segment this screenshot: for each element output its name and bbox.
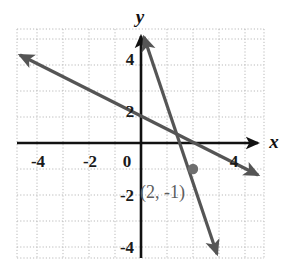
x-axis-label: x — [268, 131, 279, 152]
graph-svg: -4 -2 0 4 4 2 -2 -4 x y (2, -1) — [0, 0, 291, 266]
x-tick-label-0: 0 — [123, 152, 132, 171]
coordinate-plane-figure: -4 -2 0 4 4 2 -2 -4 x y (2, -1) — [0, 0, 291, 266]
y-axis-label: y — [134, 6, 145, 27]
x-tick-label--4: -4 — [31, 152, 46, 171]
intersection-point-label: (2, -1) — [140, 182, 185, 203]
y-tick-label-4: 4 — [126, 50, 135, 69]
intersection-point-marker — [188, 164, 198, 174]
y-tick-label--2: -2 — [120, 186, 134, 205]
y-tick-label--4: -4 — [120, 238, 135, 257]
x-tick-label-4: 4 — [230, 152, 239, 171]
y-tick-label-2: 2 — [126, 102, 135, 121]
x-tick-label--2: -2 — [83, 152, 97, 171]
